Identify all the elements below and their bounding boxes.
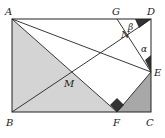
label-alpha: α: [141, 44, 147, 54]
label-a: A: [4, 6, 12, 17]
label-f: F: [112, 117, 121, 128]
label-beta: β: [127, 22, 133, 32]
label-d: D: [146, 6, 155, 17]
label-e: E: [153, 67, 162, 78]
label-c: C: [146, 117, 154, 128]
label-m: M: [63, 78, 75, 89]
label-g: G: [112, 6, 120, 17]
geometry-diagram: A G D N β α E M B F C: [0, 0, 165, 138]
label-b: B: [5, 117, 13, 128]
